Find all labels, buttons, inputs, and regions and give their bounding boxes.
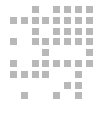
matrix-module (75, 38, 82, 45)
matrix-code-canvas (0, 0, 101, 127)
matrix-module (53, 6, 60, 13)
matrix-module (86, 38, 93, 45)
matrix-module (75, 17, 82, 24)
matrix-module (42, 38, 49, 45)
matrix-module (86, 49, 93, 56)
matrix-module (32, 38, 39, 45)
matrix-module (64, 28, 71, 35)
matrix-module (64, 82, 71, 89)
matrix-module (64, 17, 71, 24)
matrix-module (75, 92, 82, 99)
matrix-module (53, 60, 60, 67)
matrix-module (86, 28, 93, 35)
matrix-module (10, 60, 17, 67)
matrix-module (75, 28, 82, 35)
matrix-module (10, 38, 17, 45)
matrix-module (21, 17, 28, 24)
matrix-module (86, 17, 93, 24)
matrix-module (32, 6, 39, 13)
matrix-module (32, 17, 39, 24)
matrix-module (10, 17, 17, 24)
matrix-module (42, 49, 49, 56)
matrix-module (42, 71, 49, 78)
matrix-module (21, 92, 28, 99)
matrix-module (64, 6, 71, 13)
matrix-module (10, 71, 17, 78)
matrix-module (75, 71, 82, 78)
matrix-module (75, 60, 82, 67)
matrix-module (75, 82, 82, 89)
matrix-module (53, 92, 60, 99)
matrix-module (86, 6, 93, 13)
matrix-module (53, 38, 60, 45)
matrix-module (86, 60, 93, 67)
matrix-module (42, 60, 49, 67)
matrix-module (32, 60, 39, 67)
matrix-module (42, 17, 49, 24)
matrix-module (32, 28, 39, 35)
matrix-module (53, 17, 60, 24)
matrix-module (64, 38, 71, 45)
matrix-module (75, 6, 82, 13)
matrix-module (21, 71, 28, 78)
matrix-module (53, 28, 60, 35)
matrix-module (32, 71, 39, 78)
matrix-module (64, 60, 71, 67)
